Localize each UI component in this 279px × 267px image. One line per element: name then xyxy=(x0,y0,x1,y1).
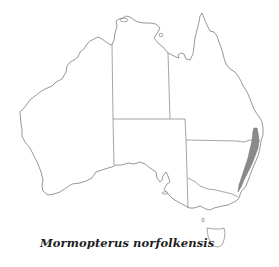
melville-island xyxy=(120,18,128,22)
distribution-map xyxy=(0,0,279,267)
mainland-coastline xyxy=(20,13,263,210)
species-name-caption: Mormopterus norfolkensis xyxy=(40,236,214,250)
king-island xyxy=(202,218,204,222)
groote-eylandt xyxy=(159,33,163,37)
kangaroo-island xyxy=(162,192,168,194)
